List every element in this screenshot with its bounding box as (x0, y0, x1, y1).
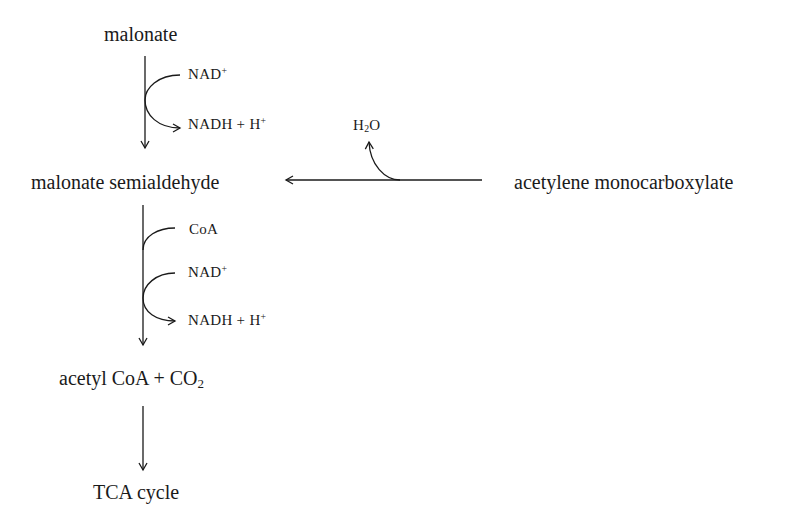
node-acetyl-coa-co2-label: acetyl CoA + CO (59, 367, 198, 389)
step1-cofactor-nad: NAD+ (188, 67, 227, 82)
subscript-2: 2 (198, 376, 205, 391)
nadh-label: NADH + H (188, 312, 261, 328)
pathway-diagram: malonate malonate semialdehyde acetylene… (0, 0, 793, 531)
nadh-label: NADH + H (188, 116, 261, 132)
node-malonate-semialdehyde-label: malonate semialdehyde (31, 171, 219, 193)
node-malonate-label: malonate (104, 23, 177, 45)
node-tca-cycle: TCA cycle (93, 482, 179, 502)
water-h: H (353, 117, 364, 133)
node-acetyl-coa-co2: acetyl CoA + CO2 (59, 368, 204, 388)
node-malonate: malonate (104, 24, 177, 44)
node-malonate-semialdehyde: malonate semialdehyde (31, 172, 219, 192)
superscript-plus: + (261, 311, 267, 322)
step2-cofactor-coa: CoA (189, 222, 218, 237)
superscript-plus: + (261, 115, 267, 126)
arrows-layer (0, 0, 793, 531)
water-release-curve (369, 142, 400, 180)
nad-label: NAD (188, 264, 221, 280)
side-product-water: H2O (353, 118, 380, 133)
nad-label: NAD (188, 66, 221, 82)
water-o: O (369, 117, 380, 133)
cofactor-curve-coa-in (143, 228, 175, 250)
coa-label: CoA (189, 221, 218, 237)
superscript-plus: + (221, 65, 227, 76)
step2-cofactor-nadh: NADH + H+ (188, 313, 266, 328)
superscript-plus: + (221, 263, 227, 274)
step1-cofactor-nadh: NADH + H+ (188, 117, 266, 132)
node-acetylene-monocarboxylate: acetylene monocarboxylate (514, 172, 733, 192)
cofactor-curve-nad-to-nadh-1 (145, 75, 180, 128)
step2-cofactor-nad: NAD+ (188, 265, 227, 280)
cofactor-curve-nad-to-nadh-2 (143, 273, 175, 321)
node-tca-cycle-label: TCA cycle (93, 481, 179, 503)
node-acetylene-monocarboxylate-label: acetylene monocarboxylate (514, 171, 733, 193)
